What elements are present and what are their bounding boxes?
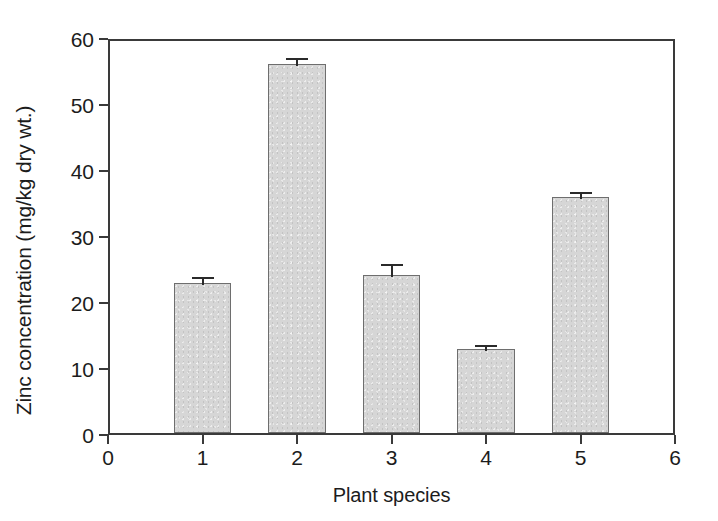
x-tick: 5 bbox=[580, 435, 582, 444]
y-tick-label: 30 bbox=[71, 227, 94, 248]
axis-line-right bbox=[673, 39, 675, 435]
bar-species-4 bbox=[457, 349, 515, 433]
x-tick: 4 bbox=[485, 435, 487, 444]
y-tick-label: 10 bbox=[71, 359, 94, 380]
y-tick-label: 50 bbox=[71, 95, 94, 116]
bar-species-5 bbox=[552, 197, 610, 433]
error-cap-species-4 bbox=[475, 345, 497, 347]
y-tick-label: 20 bbox=[71, 293, 94, 314]
y-tick: 40 bbox=[99, 170, 108, 172]
x-tick: 1 bbox=[202, 435, 204, 444]
y-tick: 20 bbox=[99, 302, 108, 304]
error-cap-species-1 bbox=[192, 277, 214, 279]
y-tick: 10 bbox=[99, 368, 108, 370]
y-tick: 60 bbox=[99, 38, 108, 40]
y-tick-label: 40 bbox=[71, 161, 94, 182]
x-tick-label: 4 bbox=[480, 447, 492, 468]
axis-line-top bbox=[108, 39, 675, 41]
y-tick-label: 60 bbox=[71, 29, 94, 50]
bar-species-3 bbox=[363, 275, 421, 433]
x-tick-label: 5 bbox=[575, 447, 587, 468]
bar-species-2 bbox=[268, 64, 326, 433]
bar-chart-figure: Zinc concentration (mg/kg dry wt.) 01020… bbox=[0, 0, 718, 521]
x-tick-label: 3 bbox=[386, 447, 398, 468]
error-cap-species-3 bbox=[381, 264, 403, 266]
x-tick: 0 bbox=[107, 435, 109, 444]
x-axis-title: Plant species bbox=[108, 484, 675, 507]
x-tick: 3 bbox=[391, 435, 393, 444]
error-cap-species-5 bbox=[570, 192, 592, 194]
y-tick: 50 bbox=[99, 104, 108, 106]
x-tick-label: 2 bbox=[291, 447, 303, 468]
x-tick: 2 bbox=[296, 435, 298, 444]
axis-line-left bbox=[108, 39, 110, 435]
y-tick-label: 0 bbox=[82, 425, 94, 446]
x-tick-label: 6 bbox=[669, 447, 681, 468]
y-tick: 30 bbox=[99, 236, 108, 238]
error-cap-species-2 bbox=[286, 58, 308, 60]
plot-area: 0102030405060 0123456 bbox=[108, 39, 675, 435]
x-tick: 6 bbox=[674, 435, 676, 444]
x-tick-label: 1 bbox=[197, 447, 209, 468]
y-axis-title: Zinc concentration (mg/kg dry wt.) bbox=[0, 0, 48, 521]
bar-species-1 bbox=[174, 283, 232, 433]
x-tick-label: 0 bbox=[102, 447, 114, 468]
